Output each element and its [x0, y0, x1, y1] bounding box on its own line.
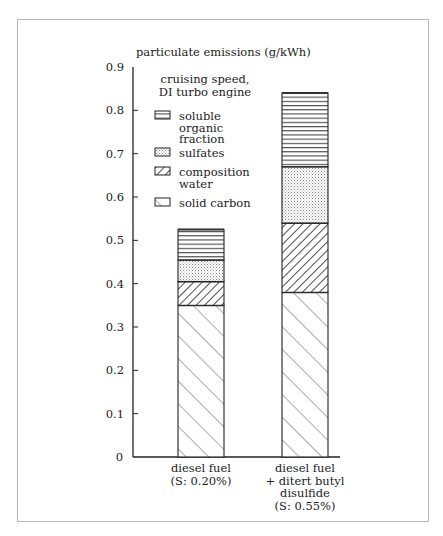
legend-swatch-fwddiag-icon — [155, 198, 170, 206]
y-tick-label: 0.1 — [106, 407, 124, 421]
legend-label: solid carbon — [179, 196, 251, 210]
bar-segment-soluble-organic-fraction — [178, 230, 224, 260]
bar-segment-sulfates — [178, 260, 224, 282]
bar-segment-composition-water — [178, 282, 224, 306]
y-tick-label: 0.8 — [106, 103, 124, 117]
bar-1 — [178, 230, 224, 458]
legend: solubleorganicfractionsulfatescompositio… — [155, 109, 251, 210]
stacked-bar-chart: particulate emissions (g/kWh) 00.10.20.3… — [0, 0, 443, 536]
legend-item: compositionwater — [155, 165, 250, 191]
legend-label: sulfates — [179, 146, 225, 160]
y-tick-label: 0.7 — [106, 147, 124, 161]
legend-annotation: cruising speed,DI turbo engine — [159, 72, 252, 99]
bar-segment-composition-water — [282, 223, 328, 292]
legend-label: fraction — [179, 132, 225, 146]
legend-item: solid carbon — [155, 196, 251, 210]
y-tick-label: 0.6 — [106, 190, 124, 204]
legend-swatch-dots-icon — [155, 148, 170, 156]
bar-2 — [282, 93, 328, 457]
annotation-line: cruising speed, — [161, 72, 250, 86]
legend-swatch-backdiag-icon — [155, 167, 170, 175]
bar-segment-soluble-organic-fraction — [282, 93, 328, 167]
annotation-line: DI turbo engine — [159, 85, 252, 99]
legend-item: sulfates — [155, 146, 225, 160]
y-tick-label: 0.9 — [106, 60, 124, 74]
x-category-label: (S: 0.55%) — [275, 499, 336, 513]
x-axis-labels: diesel fuel(S: 0.20%)diesel fuel+ ditert… — [171, 461, 345, 513]
legend-swatch-hlines-icon — [155, 111, 170, 119]
bar-segment-solid-carbon — [178, 305, 224, 457]
y-tick-label: 0.4 — [106, 277, 124, 291]
x-category-label: (S: 0.20%) — [171, 474, 232, 488]
bar-segment-solid-carbon — [282, 292, 328, 457]
bar-segment-sulfates — [282, 167, 328, 223]
y-tick-label: 0.3 — [106, 320, 124, 334]
y-tick-label: 0.5 — [106, 233, 124, 247]
legend-item: solubleorganicfraction — [155, 109, 225, 146]
y-tick-label: 0.2 — [106, 363, 124, 377]
y-axis-title: particulate emissions (g/kWh) — [136, 45, 311, 59]
legend-label: water — [179, 177, 213, 191]
y-tick-label: 0 — [116, 450, 123, 464]
